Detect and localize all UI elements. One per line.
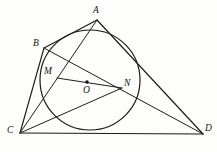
segment-cd <box>20 133 203 134</box>
segment-bc <box>20 48 44 133</box>
point-label-o: O <box>83 86 90 96</box>
point-label-c: C <box>7 126 13 136</box>
point-label-n: N <box>124 79 130 89</box>
segment-da <box>97 20 203 134</box>
center-point-o-dot <box>85 80 88 83</box>
point-label-d: D <box>205 124 212 134</box>
figure-canvas <box>0 0 217 152</box>
point-label-m: M <box>44 67 52 77</box>
segment-bd-diagonal <box>44 48 203 134</box>
geometry-figure: A B C D M N O <box>0 0 217 152</box>
point-label-a: A <box>93 6 99 16</box>
segment-ab <box>44 20 97 48</box>
point-label-b: B <box>33 39 39 49</box>
